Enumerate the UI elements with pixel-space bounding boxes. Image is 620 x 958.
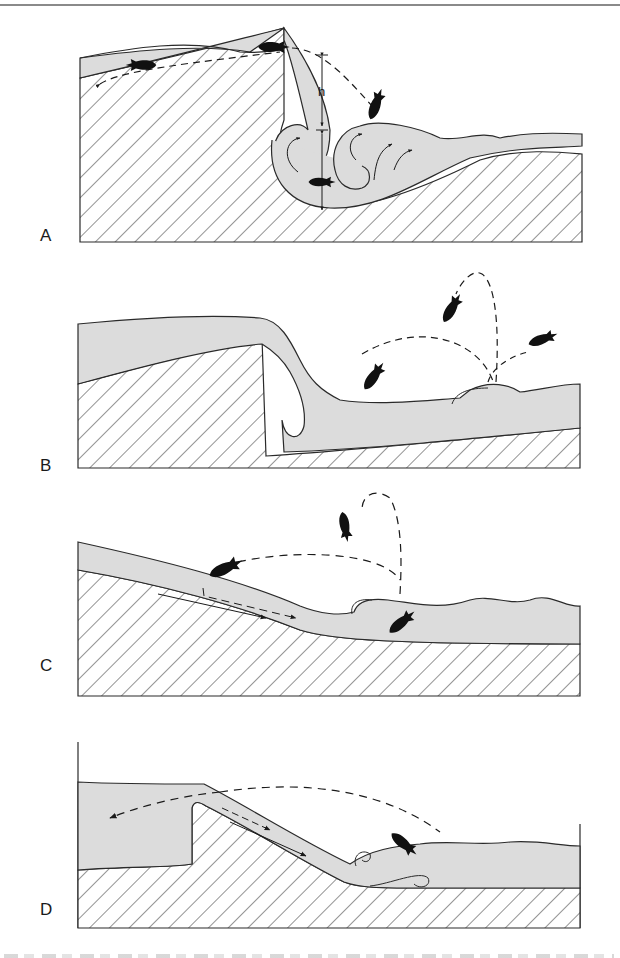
fish-icon xyxy=(438,291,465,325)
fish-leap-path xyxy=(238,555,400,580)
panel-a-diagram: h xyxy=(0,0,620,260)
fish-leap-path-short xyxy=(488,352,528,382)
caption-text-cut-off xyxy=(4,954,614,958)
panel-label-c: C xyxy=(40,656,52,676)
panel-label-d: D xyxy=(40,900,52,920)
figure-caption-truncated xyxy=(0,950,620,958)
panel-label-a: A xyxy=(40,226,51,246)
fish-icon xyxy=(527,328,560,350)
panel-label-b: B xyxy=(40,456,51,476)
panel-d-diagram xyxy=(0,700,620,930)
panel-c-diagram xyxy=(0,480,620,700)
fish-leap-path xyxy=(362,337,494,384)
panel-b: B xyxy=(0,260,620,480)
fish-leap-path-high xyxy=(456,273,497,382)
fish-leap-path-high xyxy=(362,493,401,594)
fish-icon xyxy=(360,359,389,393)
fish-icon xyxy=(336,511,353,543)
panel-b-diagram xyxy=(0,260,620,480)
panel-a: h A xyxy=(0,0,620,260)
fish-icon xyxy=(365,87,388,122)
height-h-label: h xyxy=(318,84,325,99)
panel-d: D xyxy=(0,700,620,930)
panel-c: C xyxy=(0,480,620,700)
